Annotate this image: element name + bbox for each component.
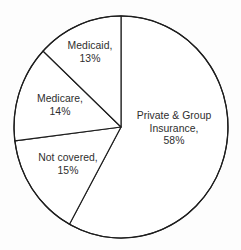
- slice-label-not-covered: Not covered, 15%: [23, 152, 113, 177]
- slice-label-line: Insurance,: [126, 123, 222, 136]
- slice-label-value: 13%: [52, 53, 128, 66]
- pie-chart: Private & Group Insurance, 58% Medicaid,…: [0, 0, 241, 250]
- slice-label-line: Private & Group: [126, 110, 222, 123]
- slice-label-medicare: Medicare, 14%: [22, 93, 98, 118]
- slice-label-private-group-insurance: Private & Group Insurance, 58%: [126, 110, 222, 148]
- slice-label-line: Not covered,: [23, 152, 113, 165]
- slice-label-line: Medicaid,: [52, 40, 128, 53]
- slice-label-medicaid: Medicaid, 13%: [52, 40, 128, 65]
- slice-label-value: 15%: [23, 165, 113, 178]
- slice-label-value: 58%: [126, 135, 222, 148]
- slice-label-value: 14%: [22, 106, 98, 119]
- slice-label-line: Medicare,: [22, 93, 98, 106]
